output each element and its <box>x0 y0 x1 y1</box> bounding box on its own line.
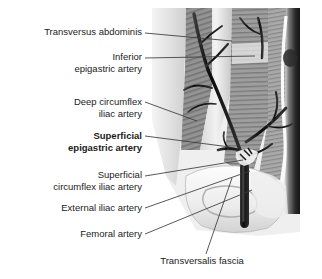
label-line: Deep circumflex <box>74 96 142 107</box>
label-transversus-abdominis: Transversus abdominis <box>44 26 142 37</box>
label-line: Superficial <box>98 169 142 180</box>
label-line: circumflex iliac artery <box>53 181 142 192</box>
lateral-dark-margin <box>284 8 300 214</box>
anatomy-figure: Transversus abdominisInferiorepigastric … <box>0 0 322 279</box>
label-line: epigastric artery <box>68 142 143 153</box>
label-line: Inferior <box>112 51 142 62</box>
label-transversalis-fascia: Transversalis fascia <box>160 255 244 266</box>
label-external-iliac-artery: External iliac artery <box>61 202 142 213</box>
label-line: Transversus abdominis <box>44 26 142 37</box>
label-line: Femoral artery <box>80 228 142 239</box>
label-deep-circumflex-iliac-artery: Deep circumflexiliac artery <box>74 96 142 119</box>
label-line: Superficial <box>93 130 142 141</box>
label-line: Transversalis fascia <box>160 255 244 266</box>
label-inferior-epigastric-artery: Inferiorepigastric artery <box>74 51 142 74</box>
deep-inguinal-ring <box>283 49 297 67</box>
label-line: iliac artery <box>99 108 143 119</box>
label-line: epigastric artery <box>74 63 142 74</box>
muscle-light-band <box>232 42 272 64</box>
label-superficial-epigastric-artery: Superficialepigastric artery <box>68 130 143 153</box>
label-line: External iliac artery <box>61 202 142 213</box>
label-femoral-artery: Femoral artery <box>80 228 142 239</box>
label-superficial-circumflex-iliac-artery: Superficialcircumflex iliac artery <box>53 169 142 192</box>
